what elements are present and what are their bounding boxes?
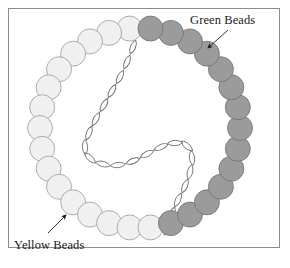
necklace-diagram (0, 0, 290, 268)
chain-link (114, 69, 126, 85)
green-beads-label: Green Beads (190, 13, 255, 28)
green-beads-arrow (208, 30, 228, 48)
chain-link (98, 97, 110, 113)
yellow-beads-label: Yellow Beads (14, 238, 84, 253)
chain-link (180, 139, 195, 153)
chain-link (82, 139, 88, 154)
chain-link (84, 125, 94, 141)
chain-link (90, 111, 102, 127)
figure-container: Green Beads Yellow Beads (0, 0, 290, 268)
chain-link (189, 150, 196, 166)
chain-link (167, 140, 182, 146)
chain-link (125, 156, 141, 166)
yellow-beads-arrow (48, 215, 66, 233)
chain-link (186, 164, 195, 180)
chain-link (110, 162, 125, 169)
chain-link (153, 142, 169, 152)
chain-link (139, 148, 155, 159)
bead-green (138, 16, 163, 41)
chain-link (106, 83, 118, 99)
bead-ring (28, 16, 253, 240)
chain-link (83, 151, 98, 165)
chain-link (95, 160, 111, 169)
chain-link (122, 54, 133, 70)
chain-link (180, 178, 191, 194)
